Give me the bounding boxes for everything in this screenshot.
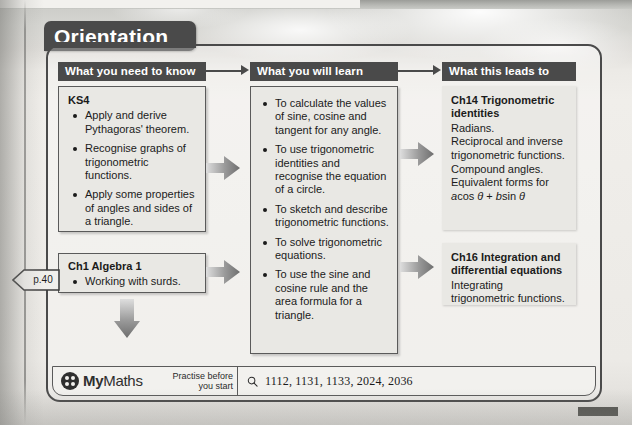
list-item: Working with surds. [68, 275, 197, 288]
box-ch1-bullet-list: Working with surds. [68, 275, 197, 288]
mymaths-word-maths: Maths [103, 372, 142, 389]
header-connector-line-2 [398, 70, 434, 72]
magnifier-icon [247, 376, 258, 387]
box-ch1-title: Ch1 Algebra 1 [68, 260, 197, 273]
mymaths-footer-bar: MyMaths Practise before you start 1112, … [52, 366, 596, 396]
box-ch14-line-2: Reciprocal and inverse trigonometric fun… [451, 135, 568, 162]
box-ch14-title: Ch14 Trigonometric identities [451, 94, 568, 121]
formula-plus: + [483, 190, 496, 202]
page-top-edge-highlight [0, 0, 360, 8]
header-arrow-icon-2 [433, 65, 441, 75]
formula-sin: sin [502, 190, 519, 202]
column-header-what-you-need-to-know: What you need to know [58, 62, 206, 81]
page-reference-label: p.40 [26, 274, 60, 286]
list-item: To use trigonometric identities and reco… [258, 143, 390, 197]
box-ch14-line-1: Radians. [451, 122, 568, 136]
panel-banner-join [46, 42, 196, 48]
mymaths-code-search-field[interactable]: 1112, 1131, 1133, 2024, 2036 [237, 367, 595, 395]
box-ch16-line-1: Integrating trigonometric functions. [451, 279, 568, 306]
formula-theta-2: θ [519, 190, 525, 202]
header-connector-line-1 [206, 70, 242, 72]
mymaths-button-icon [61, 372, 79, 390]
header-arrow-icon-1 [241, 65, 249, 75]
box-learn-bullet-list: To calculate the values of sine, cosine … [258, 97, 390, 322]
box-what-you-will-learn: To calculate the values of sine, cosine … [250, 86, 398, 354]
list-item: To calculate the values of sine, cosine … [258, 97, 390, 137]
box-ch14-line-3: Compound angles. [451, 163, 568, 177]
block-arrow-learn-to-ch16 [400, 254, 434, 280]
list-item: To sketch and describe trigonometric fun… [258, 203, 390, 230]
box-ch14-formula: acos θ + bsin θ [451, 190, 568, 204]
book-spine-line [24, 0, 26, 425]
practise-before-you-start-label: Practise before you start [171, 371, 237, 392]
practise-line-1: Practise before [171, 371, 233, 382]
list-item: To use the sine and cosine rule and the … [258, 268, 390, 322]
column-header-what-this-leads-to: What this leads to [442, 62, 576, 81]
block-arrow-learn-to-ch14 [400, 141, 434, 167]
box-ch14-line-4: Equivalent forms for [451, 176, 568, 190]
box-ch16-title: Ch16 Integration and differential equati… [451, 251, 568, 278]
list-item: Apply and derive Pythagoras' theorem. [68, 109, 197, 136]
mymaths-word-my: My [83, 372, 103, 389]
column-header-what-you-will-learn: What you will learn [250, 62, 398, 81]
box-ch16-integration-and-differential-equations: Ch16 Integration and differential equati… [442, 243, 576, 305]
box-ks4: KS4 Apply and derive Pythagoras' theorem… [58, 86, 206, 232]
box-ch14-trigonometric-identities: Ch14 Trigonometric identities Radians. R… [442, 86, 576, 230]
list-item: Apply some properties of angles and side… [68, 188, 197, 228]
list-item: Recognise graphs of trigonometric functi… [68, 142, 197, 182]
box-ks4-bullet-list: Apply and derive Pythagoras' theorem. Re… [68, 109, 197, 228]
box-ch1-algebra-1: Ch1 Algebra 1 Working with surds. [58, 253, 206, 293]
mymaths-lesson-codes: 1112, 1131, 1133, 2024, 2036 [265, 374, 413, 389]
block-arrow-ch1-to-learn [206, 259, 240, 285]
list-item: To solve trigonometric equations. [258, 236, 390, 263]
mymaths-wordmark: MyMaths [83, 373, 143, 389]
mymaths-logo[interactable]: MyMaths [53, 367, 171, 395]
formula-cos: cos [457, 190, 477, 202]
practise-line-2: you start [171, 381, 233, 392]
page-corner-tab [578, 407, 618, 416]
box-ks4-title: KS4 [68, 94, 197, 107]
block-arrow-ks4-to-learn [206, 155, 240, 181]
block-arrow-down-from-ch1 [113, 299, 141, 339]
